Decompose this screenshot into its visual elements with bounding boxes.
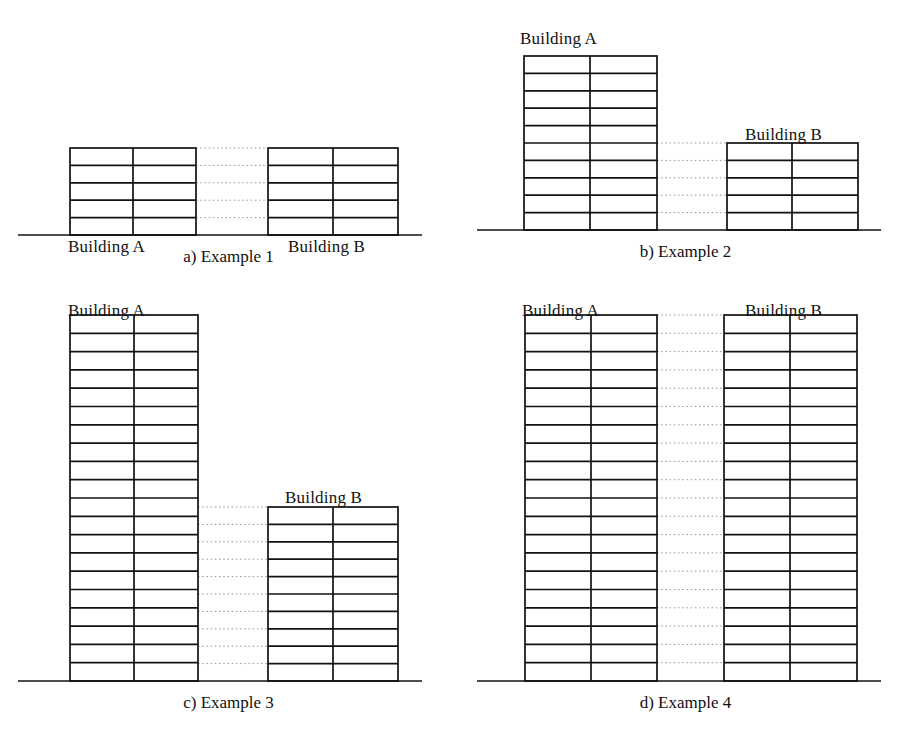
caption-example-4: d) Example 4 [457, 693, 914, 713]
caption-example-2: b) Example 2 [457, 242, 914, 262]
panel-example-1: Building A Building B [0, 110, 457, 275]
building-b-panel-d [724, 315, 857, 681]
building-a-label-panel-c: Building A [68, 301, 145, 320]
building-a-panel-a [70, 148, 196, 235]
building-a-panel-b [524, 56, 657, 230]
caption-example-3: c) Example 3 [0, 693, 457, 713]
building-a-label-panel-d: Building A [522, 301, 599, 320]
building-b-panel-c [268, 507, 398, 681]
building-a-panel-d [525, 315, 657, 681]
dotted-floor-connectors-d [657, 315, 724, 663]
building-a-label-panel-b: Building A [520, 29, 597, 48]
building-b-panel-b [727, 143, 858, 230]
building-a-panel-c [70, 315, 198, 681]
panel-example-4: Building A Building B [457, 288, 914, 728]
building-b-label-panel-c: Building B [285, 488, 362, 507]
dotted-floor-connectors-b [657, 143, 727, 213]
building-b-label-panel-d: Building B [745, 301, 822, 320]
building-b-label-panel-b: Building B [745, 125, 822, 144]
building-b-panel-a [268, 148, 398, 235]
panel-c-drawing [0, 288, 457, 728]
panel-d-drawing [457, 288, 914, 728]
caption-example-1: a) Example 1 [0, 247, 457, 267]
dotted-floor-connectors-c [198, 507, 268, 664]
panel-example-2: Building A Building B [457, 10, 914, 275]
panel-b-drawing [457, 10, 914, 275]
panel-example-3: Building A Building B [0, 288, 457, 728]
building-examples-figure: Building A Building B [0, 0, 914, 748]
dotted-floor-connectors-a [196, 148, 268, 218]
